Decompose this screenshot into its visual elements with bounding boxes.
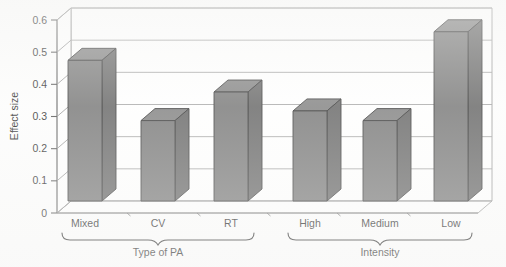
bar-rt[interactable] [214,80,262,201]
bar-mixed[interactable] [68,48,116,201]
category-label-high: High [299,217,321,229]
y-tick-label-0.6: 0.6 [32,14,47,26]
chart-canvas: 0.6 0.5 0.4 0.3 0.2 0.1 0 Effect size [0,0,506,267]
bar-high[interactable] [293,99,341,201]
group-label-intensity: Intensity [360,246,400,258]
y-tick-label-0: 0 [41,207,47,219]
y-tick-label-0.5: 0.5 [32,46,47,58]
group-bracket-type-of-pa [62,233,254,245]
group-label-type-of-pa: Type of PA [133,246,184,258]
plot-floor [57,201,492,213]
x-axis-ticks [57,213,478,216]
bar-medium[interactable] [363,109,411,201]
bar-cv[interactable] [141,109,189,201]
caption-strip [0,258,506,267]
group-bracket-intensity [288,233,472,245]
category-label-rt: RT [224,217,238,229]
y-axis-title: Effect size [8,92,20,140]
category-label-low: Low [441,217,461,229]
y-tick-label-0.2: 0.2 [32,142,47,154]
y-tick-label-0.3: 0.3 [32,110,47,122]
y-tick-label-0.4: 0.4 [32,78,47,90]
category-label-mixed: Mixed [71,217,99,229]
category-label-cv: CV [151,217,166,229]
bar-low[interactable] [434,20,482,201]
y-tick-label-0.1: 0.1 [32,174,47,186]
category-label-medium: Medium [361,217,399,229]
figure-3d-bar-chart: 0.6 0.5 0.4 0.3 0.2 0.1 0 Effect size [0,0,506,267]
